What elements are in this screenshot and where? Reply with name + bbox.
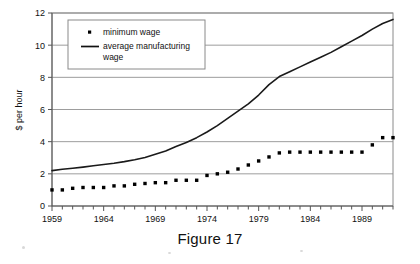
marker-1971 — [174, 179, 177, 182]
wage-comparison-chart: 024681012 1959196419691974197919841989 $… — [0, 0, 420, 264]
marker-1976 — [226, 171, 229, 174]
scan-speck — [168, 252, 171, 254]
legend-label-average-manufacturing-wage-line2: wage — [102, 52, 124, 62]
marker-1979 — [257, 159, 260, 162]
marker-1977 — [236, 167, 239, 170]
marker-1989 — [360, 150, 363, 153]
marker-1962 — [81, 186, 84, 189]
y-tick-label-8: 8 — [40, 73, 45, 83]
chart-legend: minimum wage average manufacturing wage — [68, 20, 205, 69]
x-tick-label-1984: 1984 — [300, 214, 320, 224]
y-tick-label-6: 6 — [40, 105, 45, 115]
marker-1965 — [112, 184, 115, 187]
x-tick-label-1964: 1964 — [94, 214, 114, 224]
x-tick-label-1969: 1969 — [145, 214, 165, 224]
marker-1975 — [216, 172, 219, 175]
marker-1984 — [309, 150, 312, 153]
marker-1992 — [391, 136, 394, 139]
marker-1990 — [371, 143, 374, 146]
marker-1982 — [288, 150, 291, 153]
x-tick-label-1959: 1959 — [42, 214, 62, 224]
marker-1969 — [154, 181, 157, 184]
marker-1980 — [267, 155, 270, 158]
x-tick-label-1974: 1974 — [197, 214, 217, 224]
marker-1968 — [143, 182, 146, 185]
y-tick-label-4: 4 — [40, 137, 45, 147]
marker-1985 — [319, 150, 322, 153]
y-tick-label-0: 0 — [40, 201, 45, 211]
legend-label-average-manufacturing-wage-line1: average manufacturing — [103, 41, 190, 51]
y-axis-title: $ per hour — [14, 89, 24, 130]
marker-1966 — [123, 184, 126, 187]
marker-1967 — [133, 183, 136, 186]
marker-1970 — [164, 181, 167, 184]
scan-speck — [300, 250, 303, 252]
marker-1988 — [350, 150, 353, 153]
x-axis-ticks-group: 1959196419691974197919841989 — [42, 206, 393, 224]
marker-1973 — [195, 179, 198, 182]
marker-1991 — [381, 136, 384, 139]
marker-1961 — [71, 187, 74, 190]
marker-1978 — [247, 163, 250, 166]
marker-1986 — [329, 150, 332, 153]
y-tick-label-10: 10 — [35, 41, 45, 51]
figure-caption: Figure 17 — [0, 230, 420, 247]
marker-1987 — [340, 150, 343, 153]
y-axis-ticks-group: 024681012 — [35, 8, 52, 211]
marker-1983 — [298, 150, 301, 153]
marker-1981 — [278, 151, 281, 154]
marker-1974 — [205, 174, 208, 177]
marker-1964 — [102, 186, 105, 189]
marker-1972 — [185, 179, 188, 182]
square-marker-icon — [88, 31, 91, 34]
x-tick-label-1979: 1979 — [249, 214, 269, 224]
legend-label-minimum-wage: minimum wage — [103, 27, 160, 37]
figure-17-container: 024681012 1959196419691974197919841989 $… — [0, 0, 420, 264]
scan-speck — [22, 246, 25, 249]
marker-1960 — [61, 188, 64, 191]
y-tick-label-2: 2 — [40, 169, 45, 179]
y-tick-label-12: 12 — [35, 8, 45, 18]
marker-1959 — [50, 188, 53, 191]
marker-1963 — [92, 186, 95, 189]
x-tick-label-1989: 1989 — [352, 214, 372, 224]
